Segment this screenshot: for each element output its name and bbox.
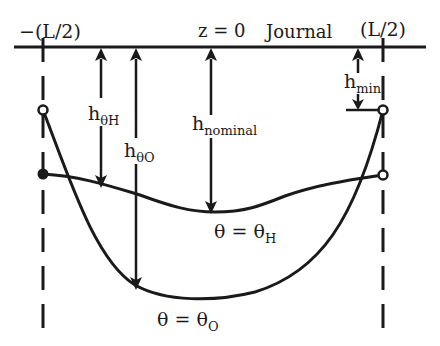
h-theta-o-label: hθO xyxy=(124,139,155,165)
theta-h-curve-label: θ = θH xyxy=(214,220,276,246)
right-end-label: (L/2) xyxy=(360,18,406,40)
h-nominal-label: hnominal xyxy=(192,112,257,138)
theta-o-left-node xyxy=(39,106,48,115)
left-end-label: −(L/2) xyxy=(19,20,81,42)
theta-o-curve-label: θ = θO xyxy=(157,308,219,334)
journal-label: Journal xyxy=(264,21,333,42)
h-theta-o-dimension xyxy=(130,48,142,290)
theta-h-left-node xyxy=(39,170,48,179)
theta-o-right-node xyxy=(379,106,388,115)
h-min-label: hmin xyxy=(344,70,382,96)
bearing-film-diagram: −(L/2) z = 0 Journal (L/2) hθH hθO hnomi… xyxy=(0,0,440,346)
theta-h-right-node xyxy=(379,171,388,180)
h-theta-h-label: hθH xyxy=(88,102,119,128)
center-z-label: z = 0 xyxy=(198,20,245,41)
